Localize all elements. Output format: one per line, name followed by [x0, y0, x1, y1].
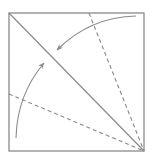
fold-diagram-svg — [0, 0, 154, 156]
fold-diagram — [0, 0, 154, 156]
